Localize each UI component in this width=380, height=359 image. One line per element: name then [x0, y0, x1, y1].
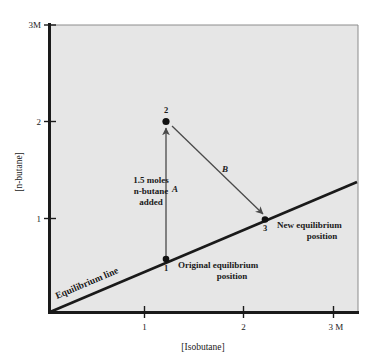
equilibrium-chart: 3M 2 1 1 2 3 M [Isobutane] [n-butane] Eq…	[0, 0, 380, 359]
original-position-annotation-line-1: Original equilibrium	[178, 260, 259, 270]
y-axis-title: [n-butane]	[14, 152, 24, 192]
arrow-a-label: A	[171, 184, 178, 194]
original-position-annotation-line-2: position	[217, 271, 248, 281]
arrow-b-label: B	[221, 164, 228, 174]
y-tick-label-2: 2	[37, 117, 42, 127]
added-moles-annotation-line-3: added	[139, 197, 163, 207]
x-tick-label-3: 3 M	[329, 322, 344, 332]
data-point-3-label: 3	[263, 223, 267, 233]
x-axis-title: [Isobutane]	[181, 342, 224, 352]
y-tick-label-1: 1	[37, 214, 42, 224]
added-moles-annotation-line-2: n-butane	[134, 186, 169, 196]
added-moles-annotation-line-1: 1.5 moles	[133, 175, 169, 185]
data-point-2	[162, 118, 169, 125]
data-point-3	[262, 216, 269, 223]
data-point-2-label: 2	[164, 105, 168, 115]
figure-container: 3M 2 1 1 2 3 M [Isobutane] [n-butane] Eq…	[0, 0, 380, 359]
y-tick-label-3: 3M	[28, 20, 41, 30]
new-position-annotation-line-2: position	[307, 231, 338, 241]
x-tick-label-2: 2	[241, 322, 246, 332]
new-position-annotation-line-1: New equilibrium	[277, 220, 342, 230]
data-point-1	[163, 256, 170, 263]
x-tick-label-1: 1	[142, 322, 147, 332]
data-point-1-label: 1	[164, 263, 168, 273]
